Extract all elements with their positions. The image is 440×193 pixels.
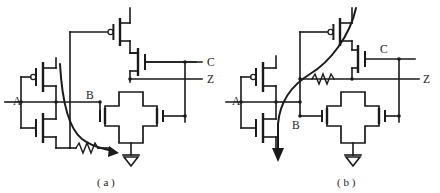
junction-dot-b-gate-b <box>298 114 302 118</box>
resistor-zigzag-a <box>76 143 98 153</box>
panel-a-ground <box>123 143 139 166</box>
panel-b-nmos-b <box>298 108 327 124</box>
junction-dot-z-a <box>128 77 132 81</box>
ground-symbol-b <box>346 157 360 166</box>
panel-a-label-z: Z <box>207 73 214 85</box>
junction-dot-c-b <box>397 57 401 61</box>
panel-b-caption: ( b ) <box>337 176 356 189</box>
panel-b-label-c: C <box>380 43 388 55</box>
panel-a-label-c: C <box>207 56 215 68</box>
junction-dot-inv-out-a <box>54 100 58 104</box>
panel-a-nmos-z <box>157 108 187 124</box>
panel-a-nmos-b <box>98 100 105 124</box>
panel-b-cross-block <box>327 92 379 143</box>
junction-dot-c-a <box>183 60 187 64</box>
ground-symbol-a <box>124 157 138 166</box>
panel-a-nmos-c <box>130 48 196 82</box>
panel-a-label-a: A <box>13 95 22 107</box>
panel-a-label-b: B <box>86 89 94 101</box>
junction-dot-z-gate-b <box>397 114 401 118</box>
panel-b-label-b: B <box>292 119 300 131</box>
panel-a-nmos-inverter <box>21 102 56 148</box>
panel-b-label-a: A <box>232 95 241 107</box>
panel-b-nmos-z <box>379 108 401 124</box>
current-arrowhead-b <box>272 148 284 162</box>
panel-a-pmos-pullup <box>108 8 130 53</box>
current-arrowhead-a <box>108 146 119 157</box>
panel-a-caption: ( a ) <box>97 176 115 189</box>
panel-a: A B C Z ( a ) <box>5 8 215 189</box>
junction-dot-z-gate-a <box>183 114 187 118</box>
panel-a-cross-block <box>105 92 157 143</box>
panel-b-pmos-inverter <box>241 56 276 102</box>
junction-dot-b-gate-a <box>98 100 102 104</box>
figure-canvas: A B C Z ( a ) <box>0 0 440 193</box>
panel-a-pmos-inverter <box>21 58 56 102</box>
junction-dot-b-b <box>298 100 302 104</box>
junction-dot-z-b <box>350 77 354 81</box>
panel-b-ground <box>345 143 361 166</box>
circuit-schematic-figure: A B C Z ( a ) <box>0 0 440 193</box>
panel-b-nmos-inverter <box>241 102 276 148</box>
panel-b: A B C Z ( b ) <box>226 8 430 189</box>
panel-b-label-z: Z <box>423 73 430 85</box>
